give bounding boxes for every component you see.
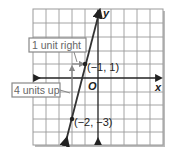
- x-axis-label: x: [154, 81, 162, 93]
- y-axis-label: y: [102, 7, 110, 19]
- point-label-neg2-neg3: (−2, −3): [74, 116, 113, 128]
- point-label-neg1-1: (−1, 1): [87, 61, 119, 73]
- origin-label: O: [88, 80, 97, 92]
- four-units-up-label: 4 units up: [14, 84, 60, 96]
- coordinate-plane: y x O (−1, 1) (−2, −3) 1 unit right 4 un…: [0, 0, 171, 155]
- one-unit-right-label: 1 unit right: [32, 39, 81, 51]
